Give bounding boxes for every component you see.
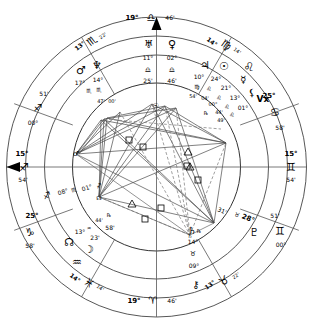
ic-minute: 46' [167,298,176,304]
gemini-cusp-subvalue: 00° [276,242,287,248]
vertex-degree: 01° [238,105,249,111]
uranus-sign-icon: ♎ [145,67,151,74]
dsc-minute: 54' [286,177,295,183]
lilith-retrograde-icon: ℞ [204,111,208,116]
node-minute: 23' [90,235,99,241]
aspect-lines [76,104,226,235]
jupiter-icon: ♃ [200,60,210,71]
asc-sign-icon: ♐ [19,162,29,173]
sagittarius-cusp-degree: 00° [28,120,39,126]
saturn-minute: 09° [189,263,200,269]
mercury-degree: 21° [221,85,232,91]
saturn-degree: 14° [188,239,199,245]
uranus-icon: ♅ [144,39,154,50]
dsc-degree: 15° [284,151,297,158]
lilith-sign-icon: ♌ [224,104,229,110]
mars-minute: 47' [97,99,105,104]
mc-minute: 46' [165,15,174,21]
uranus-degree: 11° [143,55,154,61]
saturn-retrograde-icon: ℞ [197,229,201,234]
venus-degree: 02° [167,55,178,61]
node-sign-icon: ♒ [87,226,91,231]
mc-degree: 19° [125,15,138,22]
node-degree: 13° [75,229,86,235]
asc-minute: 54' [18,177,27,183]
jupiter-minute: 54' [189,94,197,99]
cancer-cusp-minute: 58' [275,125,284,131]
inner-cluster-lower-right: ♄ [187,233,192,239]
venus-minute: 46' [167,78,176,84]
mc-sign-icon: ♎ [147,13,156,23]
neptune-degree: 14° [93,77,104,83]
north-node-icon: ☊ [64,237,74,248]
inner-cluster-lower-left: ☊ [96,195,101,201]
natal-chart-wheel: 19° ♎ 46' 19° ♈ 46' 15° ♐ 54' 15° ♊ 54' … [0,0,313,323]
leo-sign-icon: ♌ [244,61,255,73]
venus-icon: ♀ [168,39,176,50]
mercury-icon: ☿ [240,75,246,85]
chiron-icon: ⚷ [192,280,199,290]
vertex-sign-icon: ♌ [229,112,234,118]
venus-sign-icon: ♎ [169,67,175,74]
asc-arrow [7,162,21,172]
vertex-icon: Vx [257,95,270,104]
cancer-cusp-sign-icon: ♋ [270,107,280,118]
mars-icon: ♂ [76,65,86,76]
mercury-minute: 00° [209,102,218,107]
asc-degree: 15° [15,151,28,158]
mars-degree: 17° [75,80,86,86]
ic-degree: 19° [127,298,140,305]
pluto-icon: ♇ [249,227,259,238]
capricorn-cusp-minute: 58' [25,243,34,249]
jupiter-sign-icon: ♍ [194,84,199,90]
lilith-minute: 44' [215,110,223,115]
chart-svg [0,0,313,323]
ic-sign-icon: ♈ [149,296,158,306]
neptune-minute: 00' [108,99,116,104]
capricorn-cusp-degree: 25° [25,213,38,220]
sagittarius-cusp-minute: 51' [39,91,48,97]
ceres-minute: 44' [95,218,103,223]
saturn-sign-icon: ♉ [190,251,196,258]
sun-sign-icon: ♌ [206,86,211,92]
gemini-cusp-minute: 51' [270,213,279,219]
lilith-degree: 13° [230,95,241,101]
dsc-sign-icon: ♊ [286,162,296,173]
jupiter-degree: 10° [194,74,205,80]
moon-minute: 58' [105,225,114,231]
lilith-icon: ⚸ [248,88,255,98]
ceres-retrograde-icon: ℞ [107,213,111,218]
sun-degree: 24° [211,76,222,82]
inner-cluster-left: ♂ [73,151,79,158]
moon-icon: ☽ [84,244,94,255]
uranus-minute: 25' [143,78,152,84]
house-cusp-lines [7,17,307,317]
inner-cluster-top: ☉ [153,103,159,110]
neptune-sign-icon: ♏ [96,87,101,93]
mars-sign-icon: ♏ [86,88,91,94]
sagittarius-cusp-sign-icon: ♐ [34,103,43,113]
vertex-minute: 49' [217,118,225,123]
sun-icon: ☉ [219,61,229,72]
capricorn-cusp-sign-icon: ♑ [25,227,35,238]
gemini-cusp-sign-icon: ♊ [275,226,285,237]
neptune-icon: ♆ [92,60,102,71]
aquarius-sign-icon: ♒ [72,257,82,268]
